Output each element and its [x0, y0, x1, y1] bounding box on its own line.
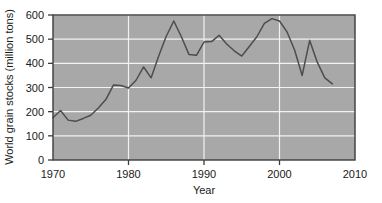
- y-tick-label-400: 400: [26, 57, 44, 69]
- x-axis-title: Year: [193, 184, 216, 196]
- x-tick-label-1990: 1990: [192, 168, 216, 180]
- x-tick-label-1980: 1980: [116, 168, 140, 180]
- y-axis-title: World grain stocks (million tons): [3, 9, 15, 165]
- x-tick-label-2010: 2010: [343, 168, 367, 180]
- chart-figure: 0100200300400500600 19701980199020002010…: [0, 0, 382, 203]
- y-tick-label-0: 0: [38, 154, 44, 166]
- x-tick-label-2000: 2000: [267, 168, 291, 180]
- y-tick-label-300: 300: [26, 82, 44, 94]
- line-chart: 0100200300400500600 19701980199020002010…: [0, 0, 382, 203]
- x-tick-label-1970: 1970: [41, 168, 65, 180]
- y-tick-label-500: 500: [26, 33, 44, 45]
- y-tick-label-200: 200: [26, 106, 44, 118]
- y-tick-label-600: 600: [26, 9, 44, 21]
- y-tick-label-100: 100: [26, 130, 44, 142]
